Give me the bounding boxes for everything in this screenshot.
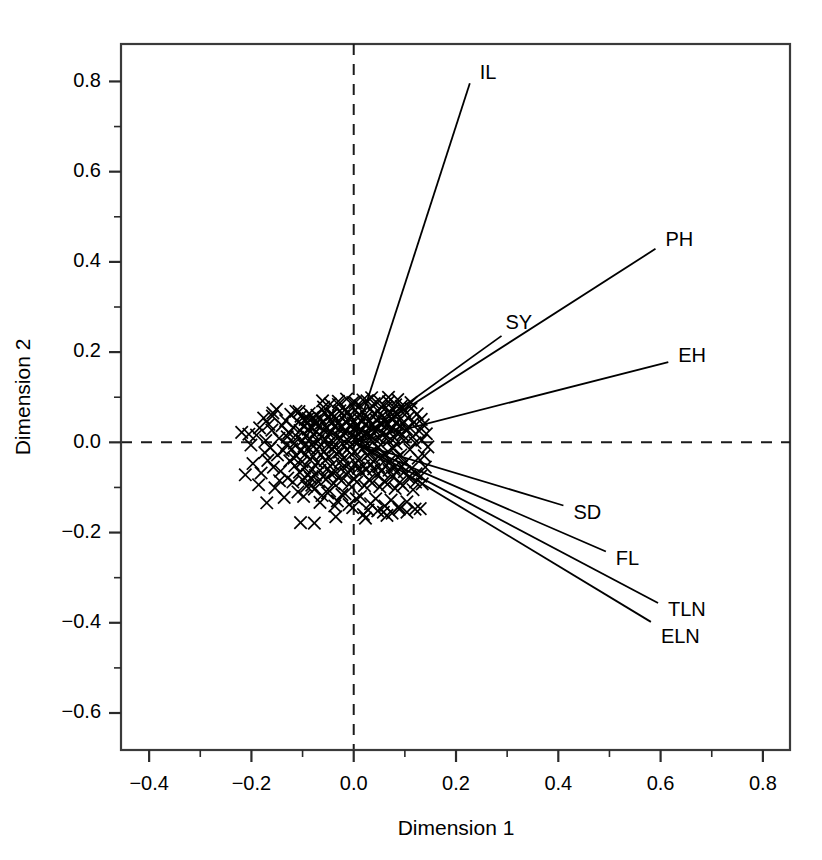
x-tick-label: 0.0 bbox=[340, 772, 368, 794]
x-axis-title: Dimension 1 bbox=[398, 816, 515, 839]
y-axis-title: Dimension 2 bbox=[11, 339, 34, 456]
loading-vector-label-sd: SD bbox=[573, 501, 601, 523]
figure-container: ILPHSYEHSDFLTLNELN −0.4−0.20.00.20.40.60… bbox=[0, 0, 822, 860]
x-tick-label: 0.4 bbox=[544, 772, 572, 794]
loading-vector-label-eln: ELN bbox=[661, 625, 700, 647]
loading-vector-label-fl: FL bbox=[616, 547, 639, 569]
y-tick-label: 0.8 bbox=[73, 69, 101, 91]
y-tick-label: −0.2 bbox=[62, 520, 101, 542]
x-tick-label: 0.2 bbox=[442, 772, 470, 794]
loading-vector-label-eh: EH bbox=[678, 344, 706, 366]
x-tick-label: 0.6 bbox=[647, 772, 675, 794]
loading-vector-label-il: IL bbox=[480, 61, 497, 83]
loading-vector-label-sy: SY bbox=[506, 311, 533, 333]
y-tick-label: 0.0 bbox=[73, 430, 101, 452]
y-tick-label: 0.4 bbox=[73, 249, 101, 271]
y-tick-label: 0.2 bbox=[73, 339, 101, 361]
y-tick-label: 0.6 bbox=[73, 159, 101, 181]
loading-vector-label-ph: PH bbox=[665, 228, 693, 250]
y-tick-label: −0.4 bbox=[62, 610, 101, 632]
x-tick-label: −0.4 bbox=[129, 772, 168, 794]
y-tick-label: −0.6 bbox=[62, 700, 101, 722]
biplot-chart: ILPHSYEHSDFLTLNELN −0.4−0.20.00.20.40.60… bbox=[0, 0, 822, 860]
loading-vector-label-tln: TLN bbox=[668, 598, 706, 620]
x-tick-label: −0.2 bbox=[232, 772, 271, 794]
x-tick-label: 0.8 bbox=[749, 772, 777, 794]
